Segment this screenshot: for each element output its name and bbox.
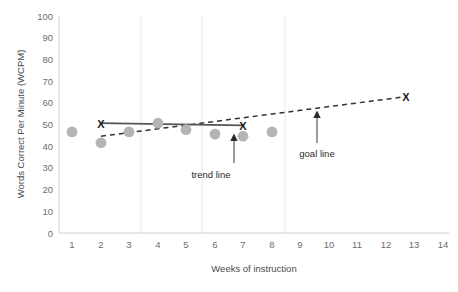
- y-tick-70: 70: [42, 76, 53, 87]
- x-tick-13: 13: [409, 239, 420, 250]
- goal-line-annotation-label: goal line: [299, 148, 334, 159]
- x-marker-trend-end: X: [239, 120, 247, 132]
- x-axis-tick-labels: 1 2 3 4 5 6 7 8 9 10 11 12 13 14: [69, 239, 448, 250]
- x-tick-1: 1: [69, 239, 74, 250]
- x-tick-4: 4: [155, 239, 160, 250]
- wcpm-progress-chart: 100 90 80 70 60 50 40 30 20 10 0 Words C…: [0, 0, 458, 292]
- plot-area-background: [59, 16, 449, 233]
- x-tick-6: 6: [212, 239, 217, 250]
- data-point-week-4: [153, 118, 164, 129]
- chart-container: 100 90 80 70 60 50 40 30 20 10 0 Words C…: [0, 0, 458, 292]
- x-tick-2: 2: [98, 239, 103, 250]
- data-point-week-6: [210, 129, 221, 140]
- x-marker-trend-start: X: [97, 118, 105, 130]
- y-axis-title: Words Correct Per Minute (WCPM): [15, 50, 26, 199]
- data-point-week-8: [267, 126, 278, 137]
- x-tick-5: 5: [183, 239, 188, 250]
- y-axis-tick-labels: 100 90 80 70 60 50 40 30 20 10 0: [37, 11, 53, 239]
- x-tick-11: 11: [352, 239, 362, 250]
- y-tick-10: 10: [42, 206, 53, 217]
- y-tick-60: 60: [42, 97, 53, 108]
- trend-line-annotation-label: trend line: [191, 169, 230, 180]
- x-tick-8: 8: [269, 239, 274, 250]
- y-tick-40: 40: [42, 141, 53, 152]
- x-tick-3: 3: [126, 239, 131, 250]
- y-tick-100: 100: [37, 11, 53, 22]
- data-point-week-7: [238, 131, 249, 142]
- x-tick-12: 12: [381, 239, 392, 250]
- y-tick-80: 80: [42, 54, 53, 65]
- y-tick-90: 90: [42, 32, 53, 43]
- x-tick-10: 10: [324, 239, 335, 250]
- data-point-week-3: [124, 126, 135, 137]
- x-tick-7: 7: [240, 239, 245, 250]
- data-point-week-5: [181, 124, 192, 135]
- y-tick-0: 0: [48, 228, 53, 239]
- x-axis-title: Weeks of instruction: [211, 263, 296, 274]
- x-marker-goal-end: X: [402, 91, 410, 103]
- data-point-week-2: [96, 137, 107, 148]
- x-tick-9: 9: [297, 239, 302, 250]
- x-tick-14: 14: [438, 239, 449, 250]
- data-point-week-1: [67, 126, 78, 137]
- y-tick-20: 20: [42, 184, 53, 195]
- y-tick-30: 30: [42, 162, 53, 173]
- y-tick-50: 50: [42, 119, 53, 130]
